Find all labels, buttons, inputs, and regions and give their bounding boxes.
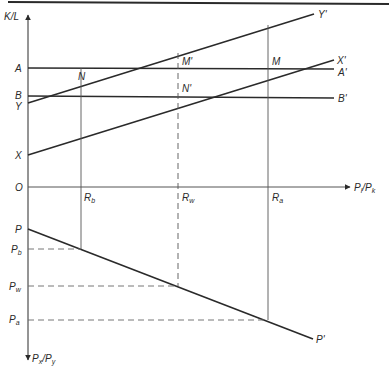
axis-label-Px-Py: Px/Py [32, 353, 56, 366]
label-A-prime: A' [337, 67, 348, 78]
point-label-N: N [78, 71, 86, 82]
line-P-P-prime [28, 229, 313, 339]
point-label-M: M [272, 56, 281, 67]
line-X-X-prime [28, 60, 334, 155]
label-X-prime: X' [336, 55, 347, 66]
line-B-B-prime [28, 96, 334, 98]
label-Y-prime: Y' [318, 9, 328, 20]
axis-label-K-L: K/L [4, 11, 19, 22]
label-P: P [15, 224, 22, 235]
tick-label-Rw: Rw [182, 192, 195, 204]
label-Pa: Pa [9, 314, 20, 326]
origin-label: O [15, 182, 23, 193]
label-B-prime: B' [338, 93, 348, 104]
label-A: A [14, 63, 22, 74]
top-border-rule [8, 2, 389, 4]
label-P-prime: P' [316, 334, 326, 345]
line-A-A-prime [28, 68, 334, 69]
tick-label-Ra: Ra [272, 192, 283, 204]
label-Pb: Pb [11, 244, 22, 256]
label-B: B [15, 90, 22, 101]
label-Pw: Pw [9, 281, 22, 293]
point-label-M-prime: M' [182, 56, 193, 67]
tick-label-Rb: Rb [84, 192, 95, 204]
point-label-N-prime: N' [182, 83, 192, 94]
axis-label-Pl-Pk: Pl/Pk [354, 182, 376, 194]
label-X: X [14, 150, 22, 161]
factor-price-diagram: K/L Px/Py Pl/Pk O A B Y X P Pb Pw Pa Y' … [0, 0, 389, 371]
label-Y: Y [15, 101, 23, 112]
